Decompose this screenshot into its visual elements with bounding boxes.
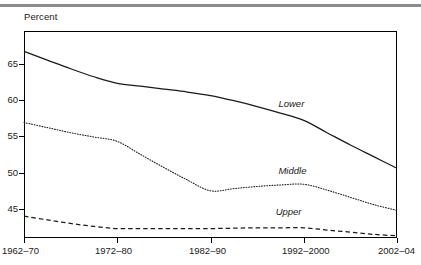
x-tick-mark — [397, 238, 398, 243]
y-tick-mark — [19, 136, 25, 137]
x-tick-label: 1992–2000 — [282, 245, 330, 256]
y-tick-mark — [19, 173, 25, 174]
y-tick-label: 60 — [0, 94, 18, 105]
chart-figure: Percent 6560555045 1962–701972–801982–90… — [0, 0, 421, 265]
x-tick-mark — [117, 238, 118, 243]
x-tick-label: 1972–80 — [95, 245, 132, 256]
y-tick-label: 65 — [0, 58, 18, 69]
y-tick-label: 55 — [0, 130, 18, 141]
series-label-middle: Middle — [278, 165, 306, 176]
x-tick-mark — [211, 238, 212, 243]
plot-area-frame — [24, 31, 397, 238]
x-tick-label: 1962–70 — [2, 245, 39, 256]
x-tick-label: 2002–04 — [378, 245, 415, 256]
series-label-upper: Upper — [276, 206, 302, 217]
y-tick-label: 50 — [0, 167, 18, 178]
x-tick-mark — [24, 238, 25, 243]
y-tick-mark — [19, 64, 25, 65]
y-axis-title: Percent — [24, 11, 57, 22]
top-divider-rule — [0, 4, 421, 7]
y-tick-label: 45 — [0, 203, 18, 214]
series-label-lower: Lower — [278, 98, 304, 109]
y-tick-mark — [19, 100, 25, 101]
y-tick-mark — [19, 209, 25, 210]
x-tick-mark — [304, 238, 305, 243]
x-tick-label: 1982–90 — [189, 245, 226, 256]
